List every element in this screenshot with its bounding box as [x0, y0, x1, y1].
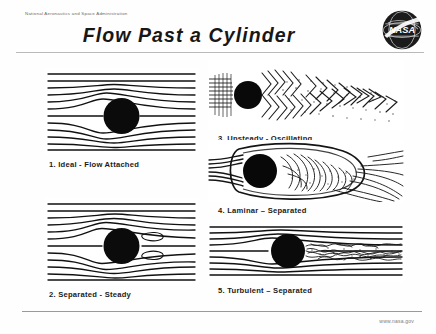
streamline-diagram-icon	[44, 198, 199, 284]
cylinder-body	[104, 98, 140, 134]
flow-visualization-photo-icon	[208, 60, 404, 130]
panel-ideal: 1. Ideal - Flow Attached	[44, 68, 199, 169]
panel-caption: 1. Ideal - Flow Attached	[49, 160, 199, 169]
nasa-meatball-icon: NASA	[380, 8, 424, 52]
panel-turbulent-separated: 5. Turbulent – Separated	[208, 220, 404, 295]
panel-caption: 5. Turbulent – Separated	[218, 286, 404, 295]
flow-visualization-photo-icon	[208, 220, 404, 282]
panel-caption: 2. Separated - Steady	[49, 290, 199, 299]
panel-unsteady-oscillating: 3. Unsteady - Oscillating	[208, 60, 404, 143]
streamline-diagram-icon	[44, 68, 199, 154]
cylinder-body	[104, 228, 140, 264]
nasa-wordmark: NASA	[389, 25, 415, 35]
footer-divider	[22, 311, 422, 312]
panel-laminar-separated: 4. Laminar – Separated	[208, 140, 404, 215]
flow-visualization-photo-icon	[208, 140, 404, 202]
slide-canvas: National Aeronautics and Space Administr…	[0, 0, 436, 334]
page-title: Flow Past a Cylinder	[0, 24, 436, 47]
panel-separated-steady: 2. Separated - Steady	[44, 198, 199, 299]
footer-url: www.nasa.gov	[379, 318, 414, 324]
cylinder-body	[234, 81, 262, 109]
agency-name: National Aeronautics and Space Administr…	[25, 11, 128, 16]
cylinder-body	[243, 154, 277, 188]
cylinder-body	[271, 234, 305, 268]
header-divider	[16, 52, 424, 53]
panel-caption: 4. Laminar – Separated	[218, 206, 404, 215]
